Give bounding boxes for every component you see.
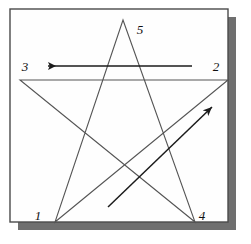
vertex-label-3: 3	[21, 59, 29, 74]
vertex-label-5: 5	[137, 22, 144, 37]
figure-frame	[10, 9, 228, 222]
vertex-label-1: 1	[35, 208, 42, 223]
vertex-label-2: 2	[213, 59, 220, 74]
vertex-label-4: 4	[199, 208, 206, 223]
figure-canvas: 1 2 3 4 5	[0, 0, 251, 244]
pentagram-figure: 1 2 3 4 5	[0, 0, 251, 244]
